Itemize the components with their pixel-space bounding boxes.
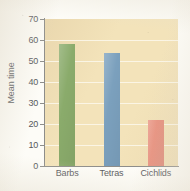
y-axis-title: Mean time [6,43,16,123]
x-axis-line [44,166,179,167]
plot-area [45,19,178,166]
y-axis-tick-label: 30 [15,99,38,108]
y-axis-tick-label: 20 [15,120,38,129]
bar-sheen [104,53,120,166]
y-axis-tick [40,124,45,125]
y-axis-tick [40,40,45,41]
y-axis-tick [40,61,45,62]
y-axis-tick-label: 0 [15,162,38,171]
y-axis-tick-label: 40 [15,78,38,87]
bar [59,44,75,166]
bar [104,53,120,166]
x-axis-tick-label: Cichlids [126,169,186,179]
y-axis-tick-labels: 706050403020100 [15,0,38,191]
y-axis-tick-label: 10 [15,141,38,150]
bar-sheen [148,120,164,166]
y-axis-tick-label: 70 [15,15,38,24]
y-axis-tick [40,82,45,83]
y-axis-tick-label: 60 [15,36,38,45]
y-axis-tick [40,145,45,146]
bar-sheen [59,44,75,166]
y-axis-tick-label: 50 [15,57,38,66]
y-axis-tick [40,19,45,20]
y-axis-tick [40,166,45,167]
gridline [45,40,178,41]
bar [148,120,164,166]
y-axis-tick [40,103,45,104]
bar-chart-figure: 706050403020100 BarbsTetrasCichlids Mean… [0,0,190,191]
